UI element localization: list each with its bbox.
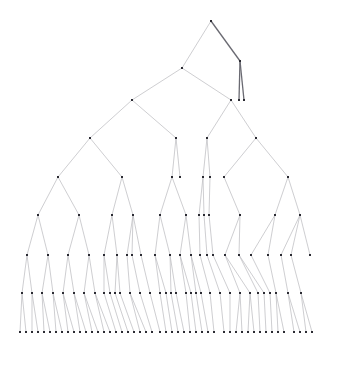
tree-node xyxy=(83,292,86,295)
tree-node xyxy=(37,214,40,217)
tree-node xyxy=(175,137,178,140)
tree-leaf-node xyxy=(31,331,34,334)
tree-leaf-node xyxy=(259,331,262,334)
tree-node xyxy=(185,214,188,217)
tree-leaf-node xyxy=(25,331,28,334)
tree-node xyxy=(21,292,24,295)
tree-node xyxy=(89,137,92,140)
tree-leaf-node xyxy=(61,331,64,334)
tree-leaf-node xyxy=(151,331,154,334)
tree-leaf-node xyxy=(49,331,52,334)
tree-node xyxy=(179,254,182,257)
tree-leaf-node xyxy=(293,331,296,334)
tree-node xyxy=(78,214,81,217)
tree-node xyxy=(114,292,117,295)
tree-node xyxy=(94,292,97,295)
tree-node xyxy=(111,214,114,217)
tree-node xyxy=(200,292,203,295)
tree-leaf-node xyxy=(109,331,112,334)
tree-node xyxy=(154,254,157,257)
tree-node xyxy=(206,137,209,140)
tree-node xyxy=(47,254,50,257)
tree-leaf-node xyxy=(165,331,168,334)
tree-node xyxy=(219,292,222,295)
tree-leaf-node xyxy=(55,331,58,334)
tree-leaf-node xyxy=(229,331,232,334)
tree-node xyxy=(57,176,60,179)
tree-node xyxy=(199,254,202,257)
tree-node xyxy=(243,99,246,102)
tree-leaf-node xyxy=(91,331,94,334)
tree-node xyxy=(165,292,168,295)
tree-leaf-node xyxy=(19,331,22,334)
tree-leaf-node xyxy=(145,331,148,334)
tree-node xyxy=(170,292,173,295)
tree-node xyxy=(203,214,206,217)
tree-leaf-node xyxy=(85,331,88,334)
tree-node xyxy=(257,292,260,295)
tree-node xyxy=(119,292,122,295)
tree-node xyxy=(190,292,193,295)
tree-leaf-node xyxy=(265,331,268,334)
tree-node xyxy=(280,254,283,257)
tree-leaf-node xyxy=(223,331,226,334)
tree-node xyxy=(229,292,232,295)
tree-node xyxy=(274,214,277,217)
tree-node xyxy=(159,214,162,217)
tree-node xyxy=(116,254,119,257)
tree-node xyxy=(300,292,303,295)
tree-leaf-node xyxy=(171,331,174,334)
tree-leaf-node xyxy=(183,331,186,334)
tree-leaf-node xyxy=(195,331,198,334)
tree-node xyxy=(121,176,124,179)
tree-leaf-node xyxy=(235,331,238,334)
tree-leaf-node xyxy=(213,331,216,334)
tree-leaf-node xyxy=(97,331,100,334)
tree-node xyxy=(212,254,215,257)
tree-node xyxy=(126,254,129,257)
tree-node xyxy=(171,176,174,179)
tree-node xyxy=(149,292,152,295)
tree-node xyxy=(238,254,241,257)
figure-background xyxy=(0,0,341,373)
tree-node xyxy=(169,254,172,257)
tree-node xyxy=(238,99,241,102)
tree-node xyxy=(202,176,205,179)
tree-node xyxy=(109,292,112,295)
tree-node xyxy=(263,292,266,295)
tree-leaf-node xyxy=(311,331,314,334)
tree-leaf-node xyxy=(139,331,142,334)
tree-node xyxy=(299,214,302,217)
tree-node xyxy=(209,176,212,179)
tree-node xyxy=(179,176,182,179)
tree-node xyxy=(287,176,290,179)
tree-leaf-node xyxy=(37,331,40,334)
tree-node xyxy=(255,137,258,140)
tree-node xyxy=(62,292,65,295)
tree-node xyxy=(129,292,132,295)
tree-leaf-node xyxy=(43,331,46,334)
tree-leaf-node xyxy=(271,331,274,334)
tree-node xyxy=(287,292,290,295)
tree-node xyxy=(267,254,270,257)
tree-node xyxy=(190,254,193,257)
tree-node xyxy=(224,254,227,257)
tree-node xyxy=(52,292,55,295)
tree-node xyxy=(290,254,293,257)
tree-node xyxy=(249,292,252,295)
tree-node xyxy=(31,292,34,295)
tree-leaf-node xyxy=(73,331,76,334)
tree-node xyxy=(250,254,253,257)
tree-node xyxy=(41,292,44,295)
tree-node xyxy=(275,292,278,295)
tree-leaf-node xyxy=(127,331,130,334)
tree-node xyxy=(103,254,106,257)
tree-node xyxy=(269,292,272,295)
tree-leaf-node xyxy=(103,331,106,334)
tree-node xyxy=(181,67,184,70)
tree-leaf-node xyxy=(247,331,250,334)
tree-node xyxy=(239,292,242,295)
tree-leaf-node xyxy=(299,331,302,334)
tree-leaf-node xyxy=(121,331,124,334)
tree-node xyxy=(195,292,198,295)
